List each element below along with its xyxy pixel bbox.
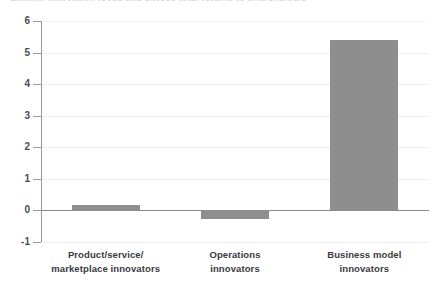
bar bbox=[72, 205, 140, 210]
category-label-line: Business model bbox=[287, 248, 435, 262]
plot-area bbox=[0, 0, 435, 284]
bar bbox=[201, 210, 269, 219]
bar bbox=[330, 40, 398, 210]
category-label-line: innovators bbox=[287, 262, 435, 276]
x-axis-category-labels: Product/service/marketplace innovatorsOp… bbox=[41, 248, 429, 282]
x-axis-category-label: Business modelinnovators bbox=[287, 248, 435, 275]
bar-chart-figure: Exhibit: Innovation focus and excess tot… bbox=[0, 0, 435, 284]
